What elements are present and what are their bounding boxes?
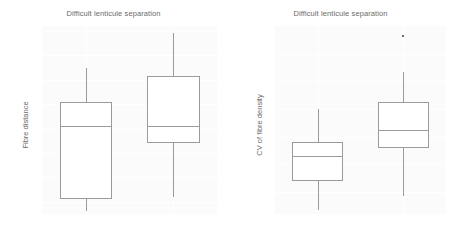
median-line	[378, 130, 429, 131]
gridline-minor	[275, 67, 446, 68]
plot-area-right: 6080100120140160YesNo	[275, 26, 446, 214]
y-axis-label-left: Fibre distance	[21, 101, 30, 148]
gridline-major	[275, 192, 446, 193]
outlier-point	[402, 35, 404, 37]
box-yes	[60, 102, 113, 200]
y-axis-label-right: CV of fibre density	[255, 94, 264, 155]
gridline-minor	[42, 43, 217, 44]
box-yes	[292, 142, 343, 181]
box-no	[147, 76, 200, 143]
panel-title-left: Difficult lenticule separation	[0, 9, 227, 18]
gridline-major	[275, 54, 446, 55]
gridline-minor	[275, 206, 446, 207]
gridline-major	[42, 31, 217, 32]
box-no	[378, 102, 429, 148]
median-line	[292, 156, 343, 157]
gridline-minor	[275, 95, 446, 96]
boxplot-figure: Difficult lenticule separation Fibre dis…	[0, 0, 454, 249]
gridline-minor	[42, 68, 217, 69]
gridline-major	[42, 202, 217, 203]
median-line	[147, 126, 200, 127]
gridline-minor	[275, 40, 446, 41]
panel-fibre-distance: Difficult lenticule separation Fibre dis…	[0, 0, 227, 249]
gridline-major	[275, 81, 446, 82]
panel-cv-fibre-density: Difficult lenticule separation CV of fib…	[227, 0, 454, 249]
gridline-major	[42, 55, 217, 56]
plot-area-left: 12.012.513.013.514.014.515.015.5YesNo	[42, 26, 217, 214]
median-line	[60, 126, 113, 127]
panel-title-right: Difficult lenticule separation	[227, 9, 454, 18]
